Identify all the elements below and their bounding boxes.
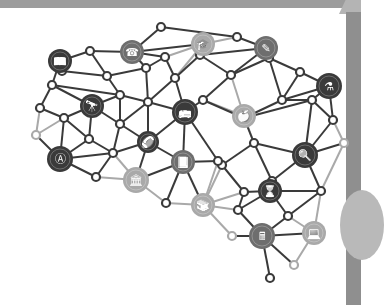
svg-text:✎: ✎ (261, 42, 270, 55)
football-icon: 🏈 (137, 131, 159, 153)
network-node (234, 206, 242, 214)
network-node (60, 114, 68, 122)
apple-icon: 🍎 (232, 104, 256, 128)
svg-text:📚: 📚 (196, 199, 210, 212)
network-edge (120, 102, 148, 124)
svg-text:💻: 💻 (307, 227, 321, 240)
network-node (162, 199, 170, 207)
network-node (199, 96, 207, 104)
network-node (266, 274, 274, 282)
abc-search-icon: Ⓐ (47, 146, 73, 172)
flask-icon: ⚗ (316, 73, 342, 99)
network-node (240, 188, 248, 196)
network-node (278, 96, 286, 104)
network-node (32, 131, 40, 139)
svg-text:🚌: 🚌 (178, 106, 192, 119)
svg-text:Ⓐ: Ⓐ (55, 153, 66, 166)
network-edge (148, 78, 175, 102)
svg-text:☎: ☎ (125, 46, 139, 59)
magnifier-icon: 🔍 (292, 142, 318, 168)
network-node (103, 72, 111, 80)
svg-text:📘: 📘 (176, 156, 190, 169)
headset-person-icon: ☎ (120, 40, 144, 64)
network-node (36, 104, 44, 112)
network-edge (222, 143, 254, 165)
network-node (284, 212, 292, 220)
network-edge (321, 143, 344, 191)
open-book-icon: 📘 (171, 150, 195, 174)
network-node (171, 74, 179, 82)
stack-of-books-icon: 📚 (191, 193, 215, 217)
svg-text:🔍: 🔍 (298, 148, 312, 162)
network-node (144, 98, 152, 106)
network-node (92, 173, 100, 181)
network-edge (62, 71, 107, 76)
network-node (142, 64, 150, 72)
svg-text:🍎: 🍎 (237, 109, 251, 123)
network-node (329, 116, 337, 124)
network-edge (200, 55, 231, 75)
network-node (340, 139, 348, 147)
school-bus-icon: 🚌 (172, 99, 198, 125)
network-node (161, 53, 169, 61)
laptop-icon: 💻 (302, 221, 326, 245)
graduation-cap-icon: 🎓 (191, 32, 215, 56)
network-edge (288, 191, 321, 216)
reading-book-icon: 📖 (48, 49, 72, 73)
svg-text:📖: 📖 (53, 55, 67, 68)
network-node (116, 91, 124, 99)
hourglass-icon: ⌛ (258, 179, 282, 203)
network-edge (203, 75, 231, 100)
network-node (116, 120, 124, 128)
svg-text:⚗: ⚗ (324, 80, 334, 93)
museum-building-icon: 🏛 (123, 167, 149, 193)
network-node (227, 71, 235, 79)
network-node (308, 96, 316, 104)
network-node (317, 187, 325, 195)
network-node (233, 33, 241, 41)
svg-text:⌛: ⌛ (263, 185, 277, 198)
network-node (109, 149, 117, 157)
network-node (157, 23, 165, 31)
network-node (228, 232, 236, 240)
svg-text:🖩: 🖩 (259, 230, 266, 243)
network-node (48, 81, 56, 89)
telescope-icon: 🔭 (80, 94, 104, 118)
svg-text:🏛: 🏛 (129, 174, 143, 187)
network-node (214, 157, 222, 165)
network-node (86, 47, 94, 55)
svg-text:🔭: 🔭 (85, 100, 99, 113)
network-node (85, 135, 93, 143)
network-edge (222, 165, 244, 192)
network-node (250, 139, 258, 147)
svg-text:🏈: 🏈 (141, 136, 155, 149)
pencil-icon: ✎ (254, 36, 278, 60)
network-edge (269, 58, 282, 100)
svg-text:🎓: 🎓 (196, 38, 210, 51)
calculator-icon: 🖩 (249, 223, 275, 249)
network-edge (107, 68, 146, 76)
network-edge (146, 68, 148, 102)
network-node (290, 261, 298, 269)
network-edge (254, 143, 272, 181)
network-node (296, 68, 304, 76)
